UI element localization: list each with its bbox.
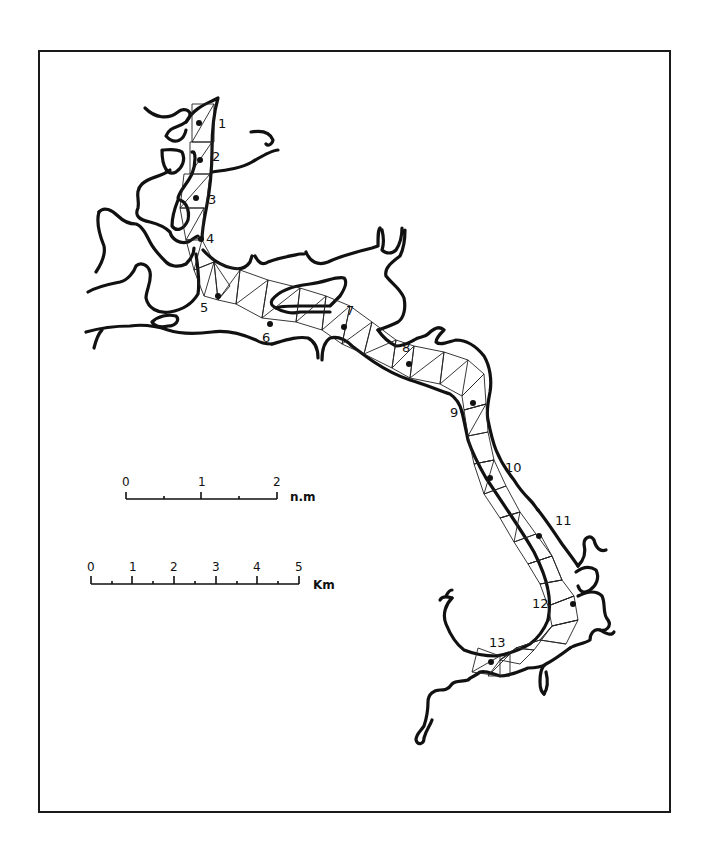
coastlines [86, 98, 614, 744]
scale-bar-nautical-miles: 0 1 2 n.m [122, 475, 316, 504]
station-label-10: 10 [505, 460, 522, 475]
station-dot-6 [267, 321, 273, 327]
station-dot-9 [470, 400, 476, 406]
nm-unit-label: n.m [290, 490, 316, 504]
station-dot-8 [406, 361, 412, 367]
station-dot-10 [487, 475, 493, 481]
nm-tick-0: 0 [122, 475, 130, 489]
station-dot-5 [215, 293, 221, 299]
station-label-3: 3 [208, 192, 216, 207]
km-tick-5: 5 [295, 560, 303, 574]
station-label-7: 7 [346, 303, 354, 318]
estuary-map: 1 2 3 4 5 6 7 8 9 10 11 12 13 0 1 2 n.m … [0, 0, 711, 852]
km-tick-0: 0 [87, 560, 95, 574]
station-dot-3 [193, 195, 199, 201]
nm-tick-2: 2 [273, 475, 281, 489]
nm-tick-1: 1 [198, 475, 206, 489]
station-label-1: 1 [218, 116, 226, 131]
station-label-6: 6 [262, 330, 270, 345]
station-dot-11 [536, 533, 542, 539]
station-dot-1 [196, 120, 202, 126]
station-label-13: 13 [489, 635, 506, 650]
scale-bar-kilometers: 0 1 2 3 4 5 Km [87, 560, 335, 592]
km-tick-1: 1 [129, 560, 137, 574]
station-label-9: 9 [450, 405, 458, 420]
station-dot-7 [341, 324, 347, 330]
station-dot-4 [198, 236, 204, 242]
km-tick-3: 3 [212, 560, 220, 574]
station-label-5: 5 [200, 300, 208, 315]
station-dot-12 [570, 601, 576, 607]
km-tick-4: 4 [253, 560, 261, 574]
station-label-2: 2 [212, 149, 220, 164]
station-label-12: 12 [532, 596, 549, 611]
station-dot-2 [197, 157, 203, 163]
station-label-11: 11 [555, 513, 572, 528]
km-tick-2: 2 [170, 560, 178, 574]
model-grid [180, 104, 578, 676]
km-unit-label: Km [313, 578, 335, 592]
station-label-8: 8 [402, 340, 410, 355]
station-label-4: 4 [206, 231, 214, 246]
station-dot-13 [488, 659, 494, 665]
